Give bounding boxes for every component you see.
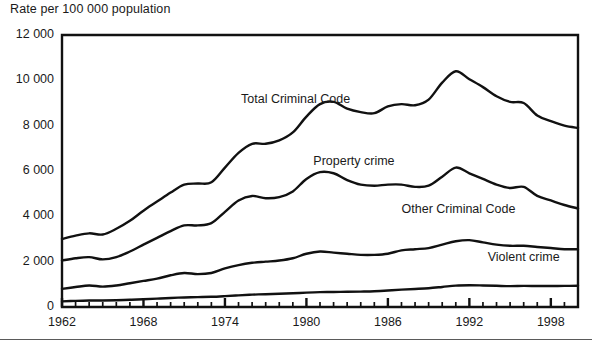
x-axis-tick-label: 1974 (200, 315, 250, 329)
y-axis-tick-label: 12 000 (16, 27, 54, 41)
x-axis-tick-label: 1968 (118, 315, 168, 329)
series-lines (62, 71, 578, 301)
x-axis-tick-label: 1962 (37, 315, 87, 329)
plot-area-svg (0, 0, 592, 348)
series-annotation-violent-crime: Violent crime (488, 250, 560, 264)
x-axis-tick-label: 1992 (444, 315, 494, 329)
x-axis-tick-label: 1980 (281, 315, 331, 329)
x-axis-tick-label: 1998 (526, 315, 576, 329)
y-axis-tick-label: 10 000 (16, 72, 54, 86)
series-annotation-total-criminal-code: Total Criminal Code (241, 92, 350, 106)
y-axis-tick-label: 8 000 (23, 118, 54, 132)
footer-rule (0, 339, 592, 340)
series-annotation-property-crime: Property crime (313, 154, 394, 168)
y-axis-tick-label: 2 000 (23, 254, 54, 268)
y-axis-tick-label: 6 000 (23, 163, 54, 177)
y-axis-tick-label: 0 (47, 299, 54, 313)
crime-rate-line-chart: Rate per 100 000 population 02 0004 0006… (0, 0, 592, 348)
x-axis-tick-label: 1986 (363, 315, 413, 329)
y-axis-tick-label: 4 000 (23, 208, 54, 222)
series-annotation-other-criminal-code: Other Criminal Code (402, 202, 516, 216)
series-line-violent-crime (62, 285, 578, 301)
